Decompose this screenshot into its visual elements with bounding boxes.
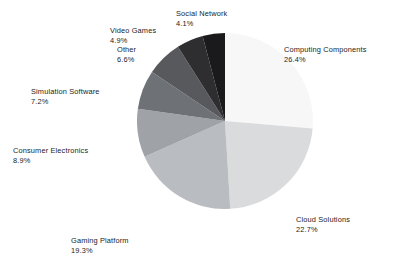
pie-label-value: 8.9%: [13, 156, 88, 166]
pie-label-video-games: Video Games 4.9%: [110, 26, 156, 45]
pie-label-other: Other 6.6%: [117, 45, 136, 64]
pie-label-name: Consumer Electronics: [13, 146, 88, 156]
pie-label-computing-components: Computing Components 26.4%: [284, 45, 367, 64]
pie-label-name: Social Network: [176, 9, 227, 19]
pie-label-name: Video Games: [110, 26, 156, 36]
pie-label-value: 4.9%: [110, 36, 156, 46]
pie-label-social-network: Social Network 4.1%: [176, 9, 227, 28]
pie-slice-cloud-solutions: [225, 121, 313, 209]
pie-label-value: 6.6%: [117, 55, 136, 65]
pie-label-consumer-electronics: Consumer Electronics 8.9%: [13, 146, 88, 165]
pie-label-value: 19.3%: [71, 246, 129, 256]
pie-label-simulation-software: Simulation Software 7.2%: [31, 87, 100, 106]
pie-label-name: Cloud Solutions: [296, 215, 350, 225]
pie-label-value: 26.4%: [284, 55, 367, 65]
pie-label-gaming-platform: Gaming Platform 19.3%: [71, 236, 129, 255]
pie-label-name: Gaming Platform: [71, 236, 129, 246]
pie-label-value: 22.7%: [296, 225, 350, 235]
pie-label-name: Computing Components: [284, 45, 367, 55]
pie-label-value: 4.1%: [176, 19, 227, 29]
pie-label-name: Simulation Software: [31, 87, 100, 97]
pie-chart-figure: Computing Components 26.4% Cloud Solutio…: [0, 0, 409, 270]
pie-label-value: 7.2%: [31, 97, 100, 107]
pie-label-name: Other: [117, 45, 136, 55]
pie-label-cloud-solutions: Cloud Solutions 22.7%: [296, 215, 350, 234]
